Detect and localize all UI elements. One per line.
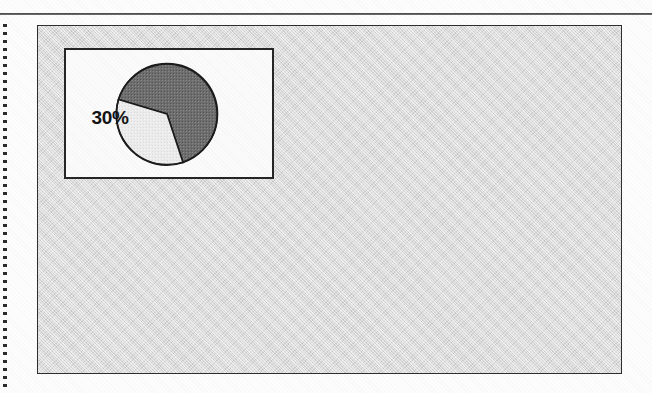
left-margin-dotted-line (3, 24, 7, 390)
figure-panel: 30% (37, 25, 622, 374)
page-top-rule (0, 13, 652, 15)
pie-slice-label-30: 30% (79, 107, 141, 129)
pie-chart: 30% (66, 50, 272, 177)
pie-chart-box: 30% (64, 48, 274, 179)
